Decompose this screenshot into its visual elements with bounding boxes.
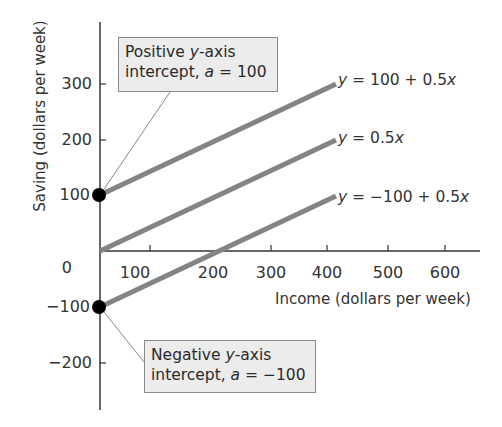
- equation-label-top: y = 100 + 0.5x: [338, 73, 456, 89]
- callout-positive-line1: Positive y-axis: [125, 42, 271, 62]
- negative-intercept-point: [92, 300, 106, 314]
- y-axis-title: Saving (dollars per week): [31, 20, 49, 211]
- y-tick-label-200: 200: [32, 132, 92, 148]
- callout-text: Negative: [151, 346, 226, 364]
- callout-text: -axis: [235, 346, 272, 364]
- x-tick-label-500: 500: [363, 265, 413, 281]
- callout-var: a: [231, 366, 241, 384]
- line-y-0.5x: [100, 140, 336, 251]
- equation-label-middle: y = 0.5x: [338, 131, 404, 147]
- callout-text: = −100: [240, 366, 305, 384]
- positive-intercept-point: [92, 188, 106, 202]
- eq-top-y: y: [338, 71, 347, 89]
- callout-text: Positive: [125, 43, 190, 61]
- callout-var: a: [205, 63, 215, 81]
- callout-leader-negative: [100, 307, 144, 362]
- callout-positive-line2: intercept, a = 100: [125, 62, 271, 82]
- eq-bot-x: x: [460, 188, 469, 206]
- callout-negative-line1: Negative y-axis: [151, 345, 309, 365]
- callout-text: intercept,: [151, 366, 231, 384]
- y-tick-label-300: 300: [32, 76, 92, 92]
- callout-var: y: [226, 346, 235, 364]
- x-tick-label-600: 600: [420, 265, 470, 281]
- x-axis-title: Income (dollars per week): [275, 290, 471, 308]
- x-tick-label-300: 300: [246, 265, 296, 281]
- x-tick-label-100: 100: [110, 265, 160, 281]
- negative-intercept-callout: Negative y-axis intercept, a = −100: [144, 340, 316, 393]
- origin-label: 0: [12, 260, 72, 276]
- y-tick-label-minus-200: −200: [32, 355, 92, 371]
- eq-bot-y: y: [338, 188, 347, 206]
- callout-text: -axis: [199, 43, 236, 61]
- eq-mid-rest: = 0.5: [347, 129, 395, 147]
- callout-negative-line2: intercept, a = −100: [151, 365, 309, 385]
- eq-top-rest: = 100 + 0.5: [347, 71, 447, 89]
- callout-var: y: [190, 43, 199, 61]
- x-tick-label-200: 200: [188, 265, 238, 281]
- y-tick-label-100: 100: [30, 187, 90, 203]
- eq-top-x: x: [447, 71, 456, 89]
- x-tick-label-400: 400: [302, 265, 352, 281]
- eq-bot-rest: = −100 + 0.5: [347, 188, 460, 206]
- eq-mid-y: y: [338, 129, 347, 147]
- y-tick-label-minus-100: −100: [30, 299, 90, 315]
- eq-mid-x: x: [395, 129, 404, 147]
- positive-intercept-callout: Positive y-axis intercept, a = 100: [118, 37, 278, 92]
- line-y-100-plus-0.5x: [100, 84, 336, 195]
- callout-text: = 100: [214, 63, 266, 81]
- equation-label-bottom: y = −100 + 0.5x: [338, 190, 469, 206]
- callout-text: intercept,: [125, 63, 205, 81]
